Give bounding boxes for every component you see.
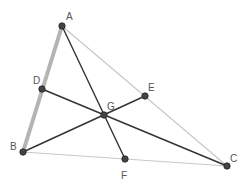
label-c: C bbox=[230, 153, 237, 164]
label-f: F bbox=[121, 170, 127, 181]
label-g: G bbox=[107, 101, 115, 112]
median-a-f bbox=[62, 26, 125, 159]
label-a: A bbox=[66, 11, 73, 22]
point-g[interactable] bbox=[101, 112, 107, 118]
point-d[interactable] bbox=[39, 86, 45, 92]
label-b: B bbox=[10, 141, 17, 152]
point-e[interactable] bbox=[142, 93, 148, 99]
point-b[interactable] bbox=[20, 149, 26, 155]
triangle-diagram: ABCDEFG bbox=[0, 0, 247, 189]
point-f[interactable] bbox=[122, 156, 128, 162]
label-d: D bbox=[33, 75, 40, 86]
point-a[interactable] bbox=[59, 23, 65, 29]
label-e: E bbox=[148, 82, 155, 93]
